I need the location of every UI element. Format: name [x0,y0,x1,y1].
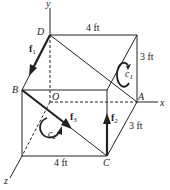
f2-arrow [103,113,111,156]
z-axis [10,156,22,178]
dim-height: 3 ft [140,51,154,62]
diagram-canvas: y x z D B O A C 4 ft 3 ft 3 ft 4 ft f1 f… [0,0,170,190]
c1-label: c1 [125,68,133,81]
point-a-label: A [137,91,145,102]
dim-depth: 3 ft [129,120,143,131]
f1-label: f1 [29,43,36,56]
x-axis-label: x [159,97,165,108]
f3-label: f3 [70,111,77,124]
f3-arrow [22,90,72,129]
z-axis-label: z [3,175,8,186]
dim-top-width: 4 ft [86,22,100,33]
hidden-edge-o-z [22,102,50,156]
point-c-label: C [103,157,110,168]
diagonal-d-a [50,35,137,102]
c2-label: c2 [48,128,56,141]
y-axis-label: y [45,0,51,9]
point-o-label: O [52,91,59,102]
point-b-label: B [12,84,18,95]
f2-label: f2 [111,112,118,125]
dim-bottom-width: 4 ft [54,157,68,168]
point-d-label: D [36,26,45,37]
